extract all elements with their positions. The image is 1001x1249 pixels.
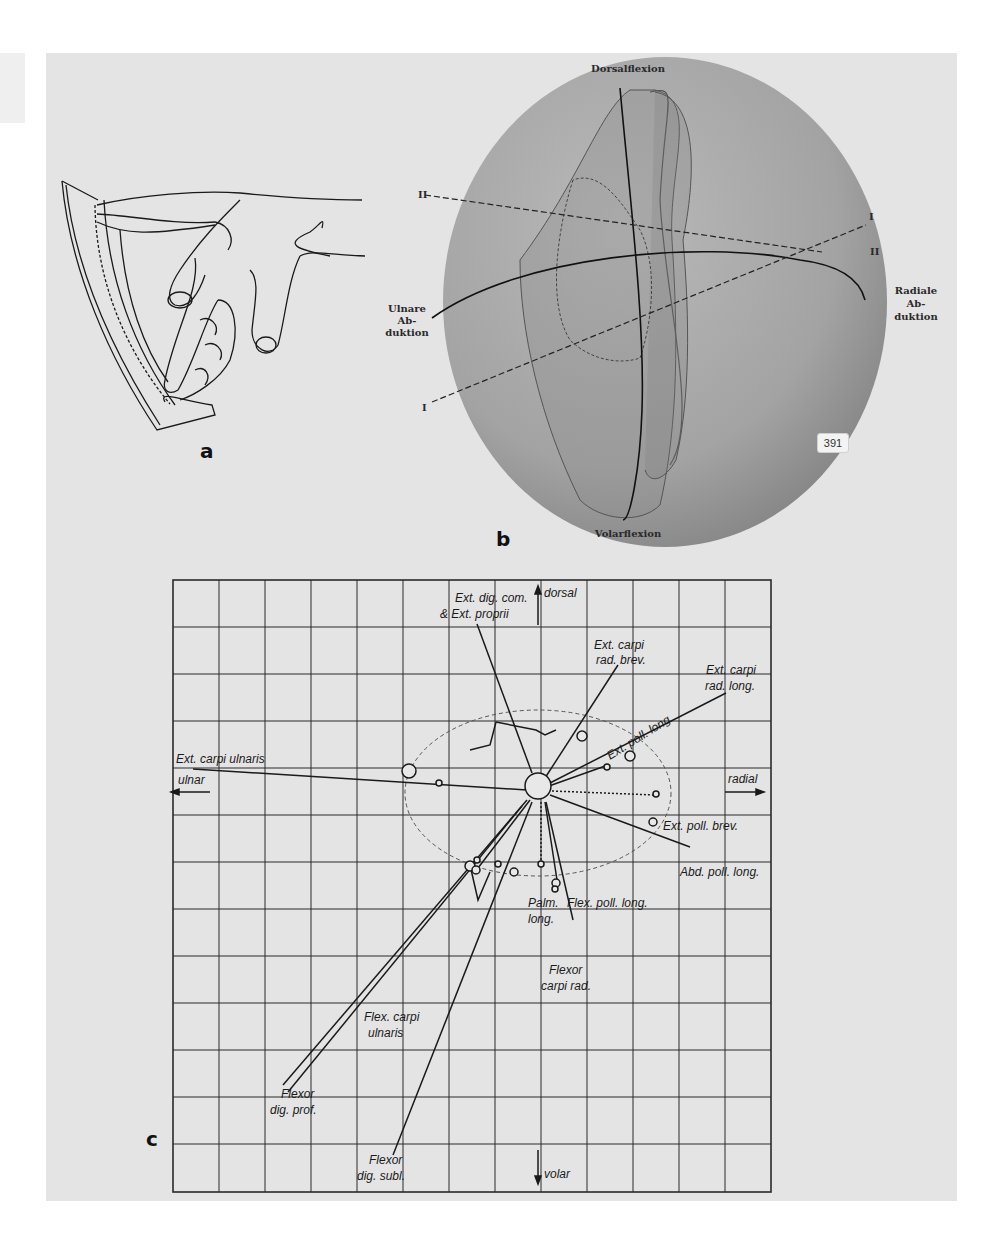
muscle-palm-long-2: long.	[528, 912, 554, 926]
muscle-palm-long: Palm.	[528, 896, 559, 910]
label-radial: radial	[728, 772, 758, 786]
panel-c-vectors	[171, 586, 764, 1184]
muscle-ext-poll-brev: Ext. poll. brev.	[663, 819, 738, 833]
label-axis-II-left: II	[418, 189, 428, 200]
label-dorsal: dorsal	[544, 586, 577, 600]
panel-b-sphere	[425, 57, 887, 547]
muscle-ext-carpi-rad-brev: Ext. carpi	[594, 638, 644, 652]
panel-c-letter: c	[146, 1127, 158, 1151]
panel-a-letter: a	[200, 439, 214, 463]
muscle-ext-carpi-rad-long: Ext. carpi	[706, 663, 756, 677]
muscle-flexor-carpi-rad-2: carpi rad.	[541, 979, 591, 993]
muscle-ext-dig-com-2: & Ext. proprii	[440, 607, 509, 621]
muscle-ext-poll-long: Ext. poll. long.	[604, 711, 675, 763]
label-ulnare: Ulnare	[388, 303, 426, 314]
muscle-abd-poll-long: Abd. poll. long.	[679, 865, 759, 879]
muscle-flex-carpi-ulnaris-2: ulnaris	[368, 1026, 403, 1040]
label-radiale: Radiale	[895, 285, 937, 296]
page-number-badge: 391	[817, 433, 849, 453]
panel-b-letter: b	[496, 527, 510, 551]
muscle-flexor-dig-prof: Flexor	[281, 1087, 315, 1101]
label-dorsalflexion: Dorsalflexion	[591, 63, 666, 74]
label-radiale-ab: Ab-	[906, 298, 926, 309]
label-axis-I-left: I	[422, 402, 427, 413]
muscle-ext-dig-com: Ext. dig. com.	[455, 591, 528, 605]
muscle-flexor-carpi-rad: Flexor	[549, 963, 583, 977]
muscle-ext-carpi-rad-long-2: rad. long.	[705, 679, 755, 693]
muscle-flex-carpi-ulnaris: Flex. carpi	[364, 1010, 420, 1024]
panel-a-hand-illustration	[62, 181, 365, 430]
label-axis-II-right: II	[870, 246, 880, 257]
label-radiale-duktion: duktion	[894, 311, 938, 322]
label-volar: volar	[544, 1167, 571, 1181]
muscle-flex-poll-long: Flex. poll. long.	[567, 896, 648, 910]
muscle-ext-carpi-rad-brev-2: rad. brev.	[596, 653, 646, 667]
muscle-flexor-dig-prof-2: dig. prof.	[270, 1103, 317, 1117]
label-ulnare-ab: Ab-	[397, 315, 417, 326]
muscle-flexor-dig-subl-2: dig. subl.	[357, 1169, 405, 1183]
muscle-ext-carpi-ulnaris: Ext. carpi ulnaris	[176, 752, 265, 766]
label-axis-I-right: I	[869, 211, 874, 222]
label-volarflexion: Volarflexion	[594, 528, 662, 539]
label-ulnar: ulnar	[178, 773, 206, 787]
figure-canvas: a Dorsalflexion Volarflexion Ulnare Ab- …	[0, 0, 1001, 1249]
muscle-flexor-dig-subl: Flexor	[369, 1153, 403, 1167]
panel-c-grid	[173, 580, 771, 1192]
label-ulnare-duktion: duktion	[385, 327, 429, 338]
